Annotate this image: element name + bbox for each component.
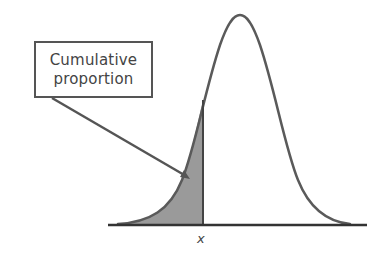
- x-axis-label: x: [197, 231, 205, 246]
- normal-curve-diagram: [0, 0, 388, 254]
- callout-arrow-line: [52, 98, 186, 176]
- cumulative-proportion-callout: Cumulative proportion: [34, 41, 153, 98]
- callout-line-1: Cumulative: [50, 51, 138, 70]
- callout-line-2: proportion: [53, 70, 133, 89]
